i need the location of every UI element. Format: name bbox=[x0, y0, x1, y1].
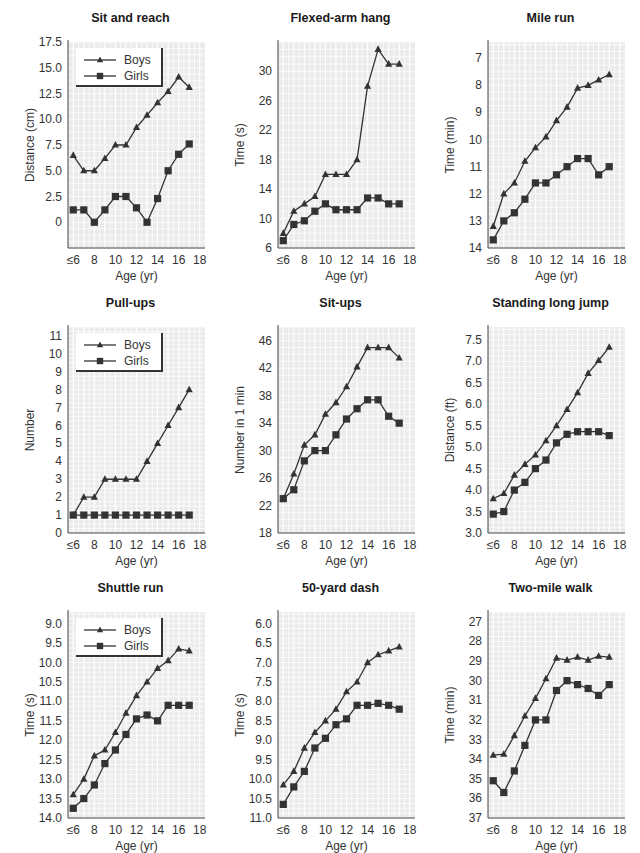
x-tick-label: 18 bbox=[193, 253, 207, 267]
chart-50-yard-dash: 50-yard dash6.06.57.07.58.08.59.09.510.0… bbox=[210, 570, 423, 853]
x-tick-label: 14 bbox=[151, 253, 165, 267]
legend: BoysGirls bbox=[76, 48, 163, 87]
square-marker bbox=[353, 405, 360, 412]
y-tick-label: 9 bbox=[55, 365, 62, 379]
x-tick-label: 8 bbox=[91, 253, 98, 267]
chart-svg: Two-mile walk2728293031323334353637≤6810… bbox=[420, 570, 633, 853]
square-marker bbox=[280, 495, 287, 502]
x-tick-label: 14 bbox=[571, 823, 585, 837]
square-marker bbox=[101, 206, 108, 213]
square-marker bbox=[574, 681, 581, 688]
square-marker bbox=[122, 193, 129, 200]
x-tick-label: ≤6 bbox=[487, 538, 501, 552]
square-marker bbox=[143, 511, 150, 518]
x-tick-label: 10 bbox=[319, 253, 333, 267]
y-axis-label: Distance (cm) bbox=[23, 108, 37, 182]
square-marker bbox=[133, 511, 140, 518]
y-axis-label: Time (s) bbox=[233, 123, 247, 167]
y-tick-label: 6.0 bbox=[255, 617, 272, 631]
x-tick-label: 8 bbox=[301, 253, 308, 267]
x-tick-label: 8 bbox=[511, 823, 518, 837]
square-marker bbox=[532, 716, 539, 723]
x-tick-label: 12 bbox=[340, 253, 354, 267]
y-tick-label: 34 bbox=[469, 752, 483, 766]
x-tick-label: 12 bbox=[130, 538, 144, 552]
square-marker bbox=[606, 432, 613, 439]
y-tick-label: 10 bbox=[469, 133, 483, 147]
x-tick-label: ≤6 bbox=[277, 823, 291, 837]
square-marker bbox=[500, 508, 507, 515]
square-marker bbox=[563, 677, 570, 684]
y-tick-label: 35 bbox=[469, 772, 483, 786]
y-tick-label: 10.0 bbox=[249, 772, 273, 786]
square-marker bbox=[290, 486, 297, 493]
y-axis-label: Number bbox=[23, 409, 37, 452]
square-marker bbox=[585, 685, 592, 692]
square-marker bbox=[80, 511, 87, 518]
chart-svg: Flexed-arm hang6101418222630≤68101214161… bbox=[210, 0, 423, 283]
square-marker bbox=[385, 200, 392, 207]
square-marker bbox=[165, 167, 172, 174]
y-tick-label: 37 bbox=[469, 811, 483, 825]
legend-label: Girls bbox=[124, 69, 149, 83]
y-tick-label: 5.0 bbox=[465, 440, 482, 454]
square-marker bbox=[574, 155, 581, 162]
y-axis-label: Time (min) bbox=[443, 117, 457, 174]
square-marker bbox=[301, 768, 308, 775]
legend-label: Girls bbox=[124, 639, 149, 653]
y-tick-label: 9.0 bbox=[45, 617, 62, 631]
y-tick-label: 7.5 bbox=[255, 675, 272, 689]
y-tick-label: 18 bbox=[259, 526, 273, 540]
y-tick-label: 13.0 bbox=[39, 772, 63, 786]
y-tick-label: 14 bbox=[259, 182, 273, 196]
y-tick-label: 13.5 bbox=[39, 792, 63, 806]
chart-flexed-arm-hang: Flexed-arm hang6101418222630≤68101214161… bbox=[210, 0, 423, 283]
square-marker bbox=[396, 420, 403, 427]
y-tick-label: 8.0 bbox=[255, 694, 272, 708]
y-tick-label: 12.5 bbox=[39, 753, 63, 767]
y-tick-label: 11.0 bbox=[250, 811, 273, 825]
y-axis-label: Time (min) bbox=[443, 687, 457, 744]
chart-title: 50-yard dash bbox=[302, 581, 379, 595]
x-axis-label: Age (yr) bbox=[115, 269, 158, 283]
y-tick-label: 11 bbox=[470, 160, 483, 174]
y-tick-label: 6.0 bbox=[465, 397, 482, 411]
x-tick-label: 8 bbox=[91, 538, 98, 552]
x-axis-label: Age (yr) bbox=[325, 554, 368, 568]
square-marker bbox=[175, 511, 182, 518]
x-tick-label: 18 bbox=[193, 823, 207, 837]
square-marker bbox=[375, 194, 382, 201]
square-marker bbox=[112, 746, 119, 753]
square-marker bbox=[606, 163, 613, 170]
square-marker bbox=[364, 396, 371, 403]
x-tick-label: 16 bbox=[382, 823, 396, 837]
square-marker bbox=[154, 511, 161, 518]
y-tick-label: 5.0 bbox=[45, 164, 62, 178]
x-tick-label: 16 bbox=[172, 253, 186, 267]
x-tick-label: 8 bbox=[511, 538, 518, 552]
x-tick-label: 18 bbox=[613, 253, 627, 267]
y-tick-label: 6.5 bbox=[255, 636, 272, 650]
x-tick-label: 18 bbox=[193, 538, 207, 552]
square-marker bbox=[364, 702, 371, 709]
square-marker bbox=[353, 702, 360, 709]
chart-standing-long-jump: Standing long jump3.03.54.04.55.05.56.06… bbox=[420, 285, 633, 568]
square-marker bbox=[343, 715, 350, 722]
x-tick-label: 12 bbox=[130, 823, 144, 837]
y-tick-label: 3.5 bbox=[465, 505, 482, 519]
y-tick-label: 4.5 bbox=[465, 462, 482, 476]
y-tick-label: 6 bbox=[265, 241, 272, 255]
square-marker bbox=[91, 219, 98, 226]
y-tick-label: 3.0 bbox=[465, 526, 482, 540]
legend: BoysGirls bbox=[76, 333, 163, 372]
square-marker bbox=[165, 702, 172, 709]
y-tick-label: 5.5 bbox=[465, 419, 482, 433]
y-tick-label: 12.5 bbox=[39, 87, 63, 101]
x-tick-label: 18 bbox=[613, 823, 627, 837]
x-tick-label: 10 bbox=[109, 823, 123, 837]
legend-label: Boys bbox=[124, 53, 151, 67]
square-marker bbox=[186, 140, 193, 147]
square-marker bbox=[606, 681, 613, 688]
x-tick-label: 8 bbox=[301, 823, 308, 837]
x-tick-label: ≤6 bbox=[487, 823, 501, 837]
